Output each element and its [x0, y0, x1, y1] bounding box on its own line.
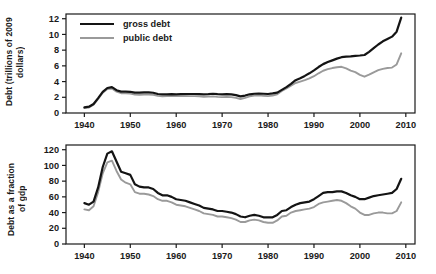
x-tick-label: 1990 [304, 120, 324, 130]
plot-frame [66, 145, 415, 244]
x-tick-label: 1950 [120, 120, 140, 130]
y-tick-label: 2 [54, 92, 59, 102]
y-tick-label: 80 [49, 176, 59, 186]
y-tick-label: 0 [54, 108, 59, 118]
x-tick-label: 1960 [166, 251, 186, 261]
x-tick-label: 1940 [74, 120, 94, 130]
x-tick-label: 2010 [396, 251, 416, 261]
debt-charts-figure: Debt (trillions of 2009 dollars) 0246810… [0, 0, 436, 274]
series-line-public-debt [84, 161, 401, 223]
chart-panel-debt-fraction-gdp: Debt as a fraction of gdp 02040608010012… [0, 137, 436, 274]
x-tick-label: 2010 [396, 120, 416, 130]
legend-label-public-debt: public debt [123, 33, 172, 43]
plot-area-top: 0246810121940195019601970198019902000201… [0, 0, 436, 137]
plot-area-bottom: 0204060801001201940195019601970198019902… [0, 137, 436, 274]
x-tick-label: 1990 [304, 251, 324, 261]
y-tick-label: 12 [49, 14, 59, 24]
y-tick-label: 4 [54, 77, 60, 87]
y-tick-label: 6 [54, 61, 59, 71]
series-line-public-debt [84, 53, 401, 108]
y-tick-label: 0 [54, 239, 59, 249]
y-tick-label: 120 [44, 145, 59, 155]
y-tick-label: 20 [49, 223, 59, 233]
x-tick-label: 1950 [120, 251, 140, 261]
x-tick-label: 1970 [212, 120, 232, 130]
y-tick-label: 60 [49, 192, 59, 202]
y-tick-label: 8 [54, 45, 59, 55]
x-tick-label: 1940 [74, 251, 94, 261]
y-tick-label: 100 [44, 161, 59, 171]
legend-label-gross-debt: gross debt [123, 19, 170, 29]
y-tick-label: 40 [49, 208, 59, 218]
x-tick-label: 2000 [350, 120, 370, 130]
x-tick-label: 1980 [258, 120, 278, 130]
x-tick-label: 2000 [350, 251, 370, 261]
x-tick-label: 1960 [166, 120, 186, 130]
y-tick-label: 10 [49, 30, 59, 40]
x-tick-label: 1970 [212, 251, 232, 261]
chart-panel-debt-trillions: Debt (trillions of 2009 dollars) 0246810… [0, 0, 436, 137]
x-tick-label: 1980 [258, 251, 278, 261]
